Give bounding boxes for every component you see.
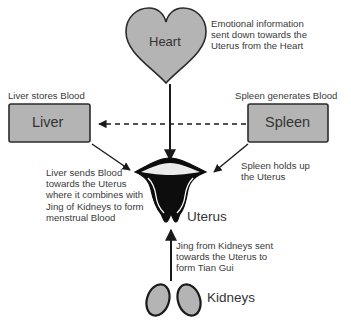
liver-title-annotation: Liver stores Blood xyxy=(8,90,85,101)
heart-label: Heart xyxy=(149,34,181,49)
kidneys-annotation: Jing from Kidneys sent towards the Uteru… xyxy=(176,240,273,274)
liver-annotation: Liver sends Blood towards the Uterus whe… xyxy=(46,167,144,223)
spleen-annotation: Spleen holds up the Uterus xyxy=(241,160,310,182)
left-kidney xyxy=(143,281,174,318)
liver-label: Liver xyxy=(32,114,63,130)
spleen-title-annotation: Spleen generates Blood xyxy=(235,90,337,101)
uterus-label: Uterus xyxy=(187,209,227,224)
kidneys-label: Kidneys xyxy=(207,290,255,305)
heart-annotation: Emotional information sent down towards … xyxy=(211,18,307,52)
right-kidney xyxy=(174,281,205,318)
spleen-label: Spleen xyxy=(265,114,310,130)
